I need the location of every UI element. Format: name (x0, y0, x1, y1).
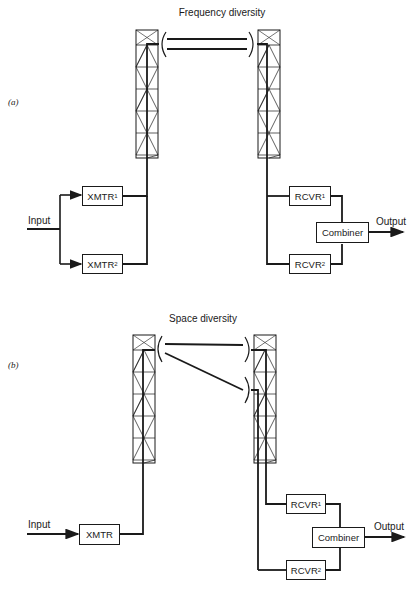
xmtr2-block: XMTR2 (82, 254, 123, 274)
diagram-lines (0, 0, 417, 591)
panel-label-b: (b) (8, 360, 19, 370)
input-label-a: Input (28, 215, 50, 226)
panel-label-a: (a) (8, 97, 19, 107)
combiner-block-b: Combiner (312, 527, 365, 548)
dish-left-b (158, 336, 162, 362)
dish-left-a (162, 32, 166, 57)
title-frequency-diversity: Frequency diversity (162, 7, 282, 18)
dish-upper-right-b (245, 337, 249, 362)
title-space-diversity: Space diversity (143, 313, 263, 324)
dish-lower-right-b (245, 377, 249, 403)
rcvr1-block-b: RCVR1 (286, 494, 326, 514)
xmtr1-block: XMTR1 (82, 186, 123, 206)
output-label-b: Output (374, 521, 404, 532)
tower-left-b (133, 335, 155, 463)
rcvr1-block: RCVR1 (289, 186, 331, 206)
tower-right-a (258, 30, 280, 158)
dish-right-a (249, 32, 253, 57)
rcvr2-block: RCVR2 (289, 254, 331, 274)
output-label-a: Output (376, 216, 406, 227)
xmtr-block: XMTR (79, 524, 120, 545)
rcvr2-block-b: RCVR2 (286, 560, 326, 580)
combiner-block-a: Combiner (316, 222, 369, 243)
input-label-b: Input (28, 519, 50, 530)
